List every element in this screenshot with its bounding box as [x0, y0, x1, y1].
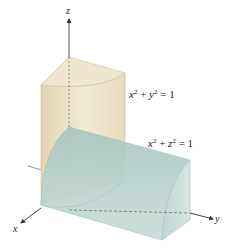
- y-axis: [190, 213, 213, 219]
- horizontal-cylinder-equation: x2 + z2 = 1: [147, 137, 193, 149]
- vertical-cylinder-equation: x2 + y2 = 1: [128, 88, 175, 100]
- x-axis-label: x: [12, 223, 18, 234]
- z-axis-label: z: [65, 5, 70, 16]
- y-axis-label: y: [214, 213, 220, 224]
- x-axis: [21, 208, 41, 223]
- cylinders-intersection-diagram: z y x x2 + y2 = 1 x2 + z2 = 1: [0, 0, 230, 251]
- y-axis-negative-segment: [28, 166, 42, 170]
